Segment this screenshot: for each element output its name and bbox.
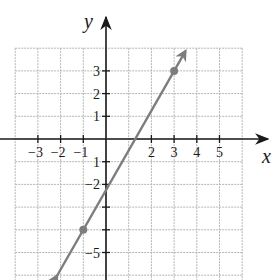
x-tick-label: 5	[216, 145, 223, 160]
y-tick-label: −2	[85, 177, 100, 192]
y-tick-label: 1	[93, 109, 100, 124]
x-tick-label: 3	[171, 145, 178, 160]
x-tick-label: −2	[51, 145, 66, 160]
x-tick-label: 2	[148, 145, 155, 160]
y-tick-label: 3	[93, 64, 100, 79]
grid	[15, 48, 242, 280]
coordinate-plane: −3−2−123453211−2−5 x y	[0, 0, 275, 280]
y-tick-label: 2	[93, 87, 100, 102]
x-axis-label: x	[261, 145, 271, 167]
x-tick-label: −1	[73, 145, 88, 160]
y-tick-label: −5	[85, 246, 100, 261]
y-axis-label: y	[82, 10, 93, 33]
x-tick-label: 4	[193, 145, 200, 160]
plotted-point	[79, 226, 87, 234]
x-tick-label: −3	[28, 145, 43, 160]
graphed-line	[57, 51, 185, 275]
plotted-point	[170, 67, 178, 75]
y-tick-label: 1	[93, 155, 100, 170]
